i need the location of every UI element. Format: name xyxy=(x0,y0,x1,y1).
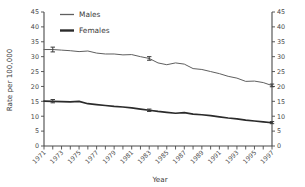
line-chart: 051015202530354045 051015202530354045 19… xyxy=(0,0,305,187)
legend-label-males: Males xyxy=(79,10,101,19)
y-tick-label-left: 10 xyxy=(31,113,39,121)
legend-label-females: Females xyxy=(79,26,110,35)
chart-container: 051015202530354045 051015202530354045 19… xyxy=(0,0,305,187)
y-tick-label-left: 15 xyxy=(31,98,39,106)
y-tick-label-right: 20 xyxy=(277,83,285,91)
y-tick-label-right: 40 xyxy=(277,23,285,31)
y-tick-label-right: 5 xyxy=(277,127,281,135)
y-tick-label-right: 25 xyxy=(277,68,285,76)
y-tick-label-left: 25 xyxy=(31,68,39,76)
y-tick-label-left: 45 xyxy=(31,8,39,16)
y-tick-label-right: 0 xyxy=(277,142,281,150)
x-axis-title: Year xyxy=(151,175,167,184)
y-tick-label-right: 45 xyxy=(277,8,285,16)
y-tick-label-left: 20 xyxy=(31,83,39,91)
y-tick-label-left: 35 xyxy=(31,38,39,46)
y-tick-label-left: 0 xyxy=(35,142,39,150)
y-tick-label-left: 5 xyxy=(35,127,39,135)
y-tick-label-left: 40 xyxy=(31,23,39,31)
y-tick-label-right: 10 xyxy=(277,113,285,121)
y-axis-title: Rate per 100,000 xyxy=(5,48,14,111)
y-tick-label-left: 30 xyxy=(31,53,39,61)
y-tick-label-right: 30 xyxy=(277,53,285,61)
y-tick-label-right: 15 xyxy=(277,98,285,106)
y-tick-label-right: 35 xyxy=(277,38,285,46)
